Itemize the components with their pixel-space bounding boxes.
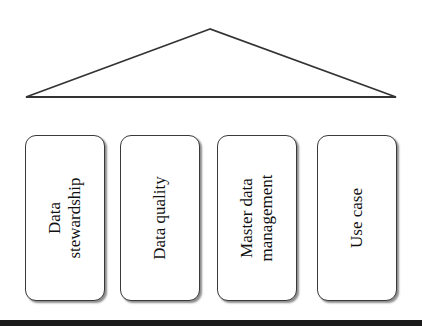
pillar-label: Data quality: [150, 176, 170, 260]
pillar-master-data-management: Master data management: [217, 135, 297, 301]
roof-triangle: [0, 0, 422, 120]
foundation-bar: [0, 320, 422, 326]
pillar-data-stewardship: Data stewardship: [25, 135, 105, 301]
pillar-label: Data stewardship: [45, 177, 85, 258]
data-governance-house-diagram: Data stewardship Data quality Master dat…: [0, 0, 422, 326]
pillar-label: Use case: [347, 188, 367, 248]
pillar-data-quality: Data quality: [120, 135, 200, 301]
pillar-use-case: Use case: [317, 135, 397, 301]
pillar-label: Master data management: [237, 175, 277, 262]
